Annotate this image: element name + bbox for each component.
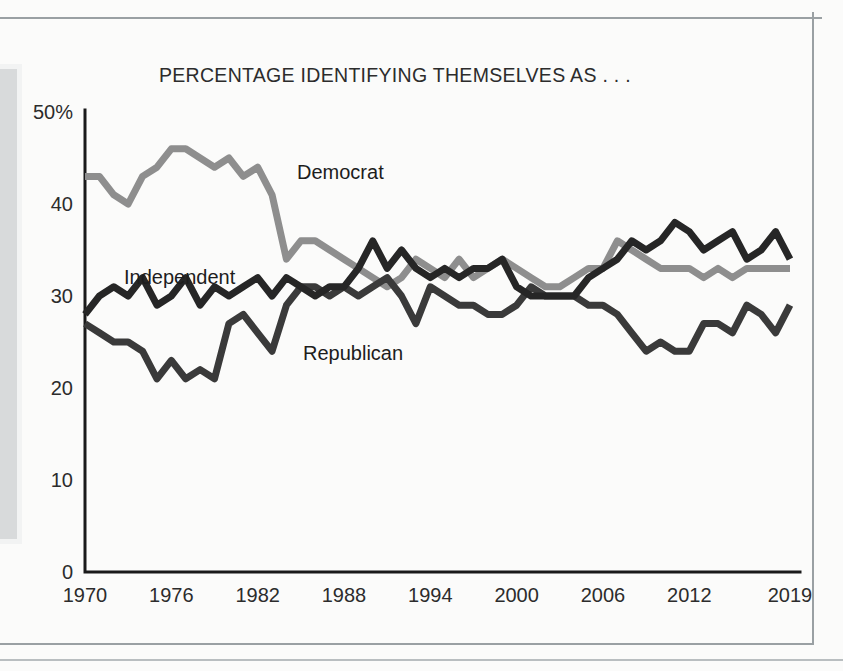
page-root: PERCENTAGE IDENTIFYING THEMSELVES AS . .… [0,0,843,671]
series-label-republican: Republican [303,342,403,364]
x-tick-label: 1982 [235,584,280,606]
x-tick-label: 1976 [149,584,194,606]
page-rule-bottom-secondary [0,659,843,661]
x-tick-label: 2019 [768,584,813,606]
x-tick-label: 2000 [494,584,539,606]
x-tick-label: 1988 [322,584,367,606]
series-label-independent: Independent [124,266,236,288]
x-tick-label: 2006 [581,584,626,606]
plot-area: 01020304050% 197019761982198819942000200… [0,20,813,640]
y-tick-label: 50% [33,101,73,123]
chart-figure: PERCENTAGE IDENTIFYING THEMSELVES AS . .… [0,20,813,640]
page-rule-top [0,17,822,19]
x-axis-tick-labels: 197019761982198819942000200620122019 [63,584,813,606]
x-tick-label: 2012 [667,584,712,606]
y-tick-label: 10 [51,469,73,491]
y-tick-label: 0 [62,561,73,583]
series-label-democrat: Democrat [297,161,384,183]
x-tick-label: 1970 [63,584,108,606]
y-axis-tick-labels: 01020304050% [33,101,73,583]
page-rule-bottom [0,643,814,645]
y-tick-label: 40 [51,193,73,215]
x-tick-label: 1994 [408,584,453,606]
y-tick-label: 30 [51,285,73,307]
y-tick-label: 20 [51,377,73,399]
line-chart-svg: 01020304050% 197019761982198819942000200… [0,20,813,640]
data-series-group [85,149,790,379]
